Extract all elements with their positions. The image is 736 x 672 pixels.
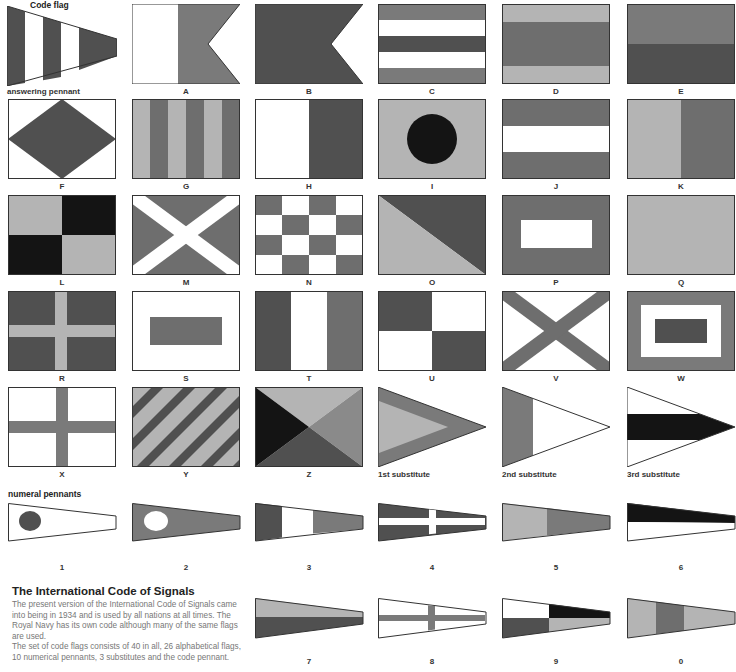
flag-w-label: W	[627, 374, 735, 383]
flag-q-label: Q	[627, 278, 735, 287]
numeral-1-label: 1	[8, 563, 116, 572]
flag-g-label: G	[132, 182, 240, 191]
flag-v	[502, 291, 610, 371]
numeral-pennant-6	[627, 503, 736, 543]
third-substitute-flag	[627, 387, 736, 467]
flag-a	[132, 4, 240, 84]
flag-x-label: X	[8, 470, 116, 479]
numeral-8-label: 8	[378, 657, 486, 666]
flag-z	[255, 387, 363, 467]
flag-r	[8, 291, 116, 371]
flag-u-label: U	[378, 374, 486, 383]
numeral-pennant-3	[255, 503, 365, 543]
flag-b	[255, 4, 363, 84]
flag-z-label: Z	[255, 470, 363, 479]
flag-d	[502, 4, 610, 84]
flag-m-label: M	[132, 278, 240, 287]
flag-c	[378, 4, 486, 84]
numeral-pennants-heading: numeral pennants	[8, 489, 81, 499]
flag-r-label: R	[8, 374, 116, 383]
numeral-4-label: 4	[378, 563, 486, 572]
flag-y	[132, 387, 240, 467]
flag-x	[8, 387, 116, 467]
flag-a-label: A	[132, 87, 240, 96]
flag-l-label: L	[8, 278, 116, 287]
flag-k	[627, 99, 735, 179]
flag-j-label: J	[502, 182, 610, 191]
flag-o-label: O	[378, 278, 486, 287]
first-substitute-label: 1st substitute	[378, 470, 486, 479]
flag-v-label: V	[502, 374, 610, 383]
numeral-pennant-1	[8, 503, 118, 543]
second-substitute-flag	[502, 387, 612, 467]
flag-h	[255, 99, 363, 179]
answering-pennant-flag	[7, 6, 117, 86]
flag-p-label: P	[502, 278, 610, 287]
flag-t-label: T	[255, 374, 363, 383]
flag-g	[132, 99, 240, 179]
numeral-2-label: 2	[132, 563, 240, 572]
third-substitute-label: 3rd substitute	[627, 470, 735, 479]
flag-i	[378, 99, 486, 179]
flag-t	[255, 291, 363, 371]
flag-m	[132, 195, 240, 275]
numeral-pennant-4	[378, 503, 488, 543]
article-paragraph-1: The present version of the International…	[12, 600, 247, 642]
numeral-pennant-0	[627, 598, 736, 640]
flag-j	[502, 99, 610, 179]
flag-o	[378, 195, 486, 275]
second-substitute-label: 2nd substitute	[502, 470, 610, 479]
flag-f	[8, 99, 116, 179]
numeral-0-label: 0	[627, 657, 735, 666]
flag-d-label: D	[502, 87, 610, 96]
flag-s-label: S	[132, 374, 240, 383]
flag-i-label: I	[378, 182, 486, 191]
answering-pennant-label: answering pennant	[7, 87, 137, 96]
flag-e-label: E	[627, 87, 735, 96]
numeral-6-label: 6	[627, 563, 735, 572]
flag-b-label: B	[255, 87, 363, 96]
numeral-pennant-5	[502, 503, 612, 543]
article-body: The present version of the International…	[12, 600, 247, 664]
numeral-7-label: 7	[255, 657, 363, 666]
flag-l	[8, 195, 116, 275]
flag-k-label: K	[627, 182, 735, 191]
article-paragraph-2: The set of code flags consists of 40 in …	[12, 642, 247, 663]
flag-h-label: H	[255, 182, 363, 191]
flag-u	[378, 291, 486, 371]
flag-s	[132, 291, 240, 371]
numeral-pennant-7	[255, 598, 365, 640]
flag-e	[627, 4, 735, 84]
flag-n	[255, 195, 363, 275]
numeral-pennant-8	[378, 598, 488, 640]
flag-p	[502, 195, 610, 275]
flag-f-label: F	[8, 182, 116, 191]
article-title: The International Code of Signals	[12, 585, 195, 597]
numeral-pennant-2	[132, 503, 242, 543]
flag-q	[627, 195, 735, 275]
flag-n-label: N	[255, 278, 363, 287]
first-substitute-flag	[378, 387, 488, 467]
numeral-5-label: 5	[502, 563, 610, 572]
flag-c-label: C	[378, 87, 486, 96]
numeral-3-label: 3	[255, 563, 363, 572]
numeral-pennant-9	[502, 598, 612, 640]
numeral-9-label: 9	[502, 657, 610, 666]
flag-w	[627, 291, 735, 371]
flag-y-label: Y	[132, 470, 240, 479]
